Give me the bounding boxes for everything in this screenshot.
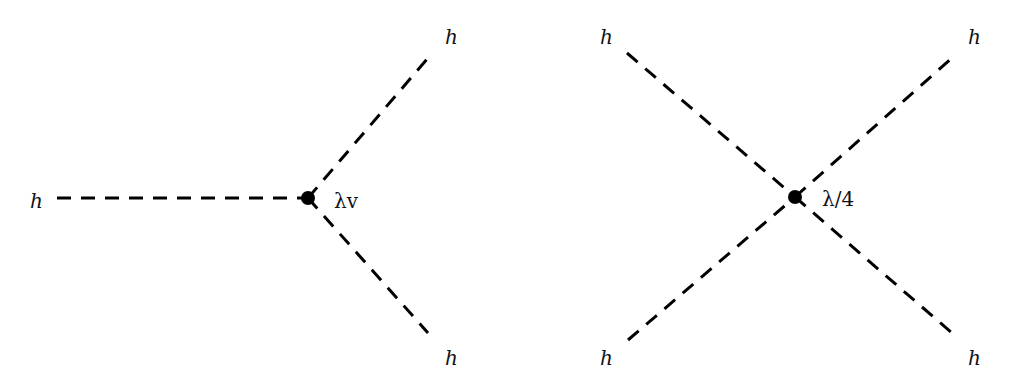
coupling-label-left: λv xyxy=(334,189,359,213)
propagator-right-top-left xyxy=(627,53,795,197)
label-right-top-left: h xyxy=(600,25,613,49)
label-left-out-bottom: h xyxy=(445,346,458,370)
propagator-left-out-top xyxy=(308,58,428,198)
propagator-right-bottom-left xyxy=(628,197,795,340)
trilinear-higgs-diagram: h h h λv xyxy=(30,25,458,370)
vertex-dot-left xyxy=(301,191,315,205)
propagator-left-out-bottom xyxy=(308,198,428,333)
quartic-higgs-diagram: h h h h λ/4 xyxy=(600,25,981,370)
feynman-diagrams: h h h λv h h h h λ/4 xyxy=(0,0,1009,387)
label-left-in: h xyxy=(30,189,43,213)
coupling-label-right: λ/4 xyxy=(822,187,854,211)
propagator-right-bottom-right xyxy=(795,197,952,333)
vertex-dot-right xyxy=(788,190,802,204)
label-right-bottom-left: h xyxy=(600,346,613,370)
label-right-bottom-right: h xyxy=(968,346,981,370)
label-right-top-right: h xyxy=(968,25,981,49)
propagator-right-top-right xyxy=(795,58,952,197)
label-left-out-top: h xyxy=(445,25,458,49)
